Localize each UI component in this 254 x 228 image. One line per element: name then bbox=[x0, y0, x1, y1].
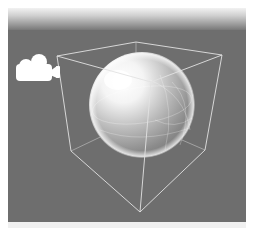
camera-icon[interactable] bbox=[16, 54, 60, 81]
scene-viewport[interactable] bbox=[8, 8, 246, 222]
sphere-object[interactable] bbox=[89, 52, 195, 158]
viewport-bottom-border bbox=[8, 222, 246, 228]
window-caption bbox=[14, 0, 244, 4]
scene-canvas[interactable] bbox=[8, 8, 246, 222]
